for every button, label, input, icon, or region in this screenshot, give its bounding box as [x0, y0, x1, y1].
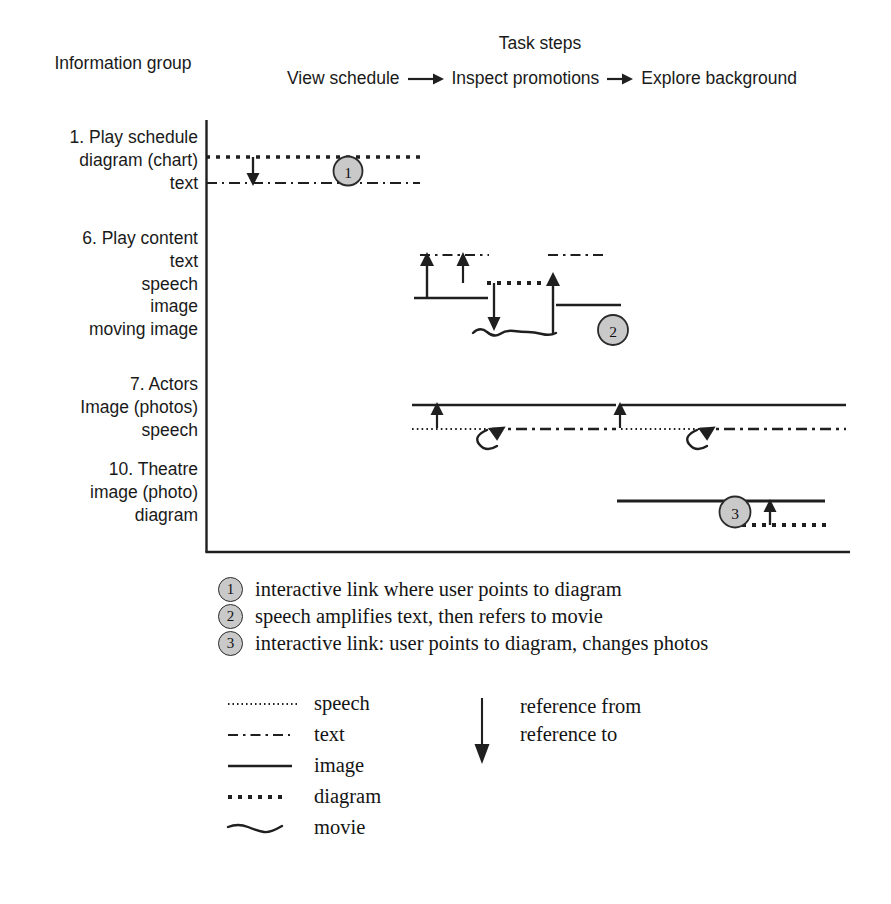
- note-text: interactive link where user points to di…: [255, 578, 622, 601]
- marker-1[interactable]: 1: [334, 157, 363, 186]
- row-play-schedule: 1: [206, 157, 420, 187]
- marker-3[interactable]: 3: [720, 497, 751, 528]
- image-line-swatch: [222, 756, 308, 776]
- marker-badge-1: 1: [218, 577, 243, 602]
- legend-label: image: [308, 754, 364, 777]
- list-item: 2 speech amplifies text, then refers to …: [218, 603, 878, 630]
- curved-reference-arrow-1: [477, 420, 509, 449]
- track-moving-image-movie: [473, 329, 556, 335]
- plot-axes: [206, 120, 851, 553]
- speech-line-swatch: [222, 694, 308, 714]
- legend-item-diagram: diagram: [222, 781, 642, 812]
- legend-item-movie: movie: [222, 812, 642, 843]
- marker-label: 2: [609, 323, 617, 340]
- legend-label: speech: [308, 692, 370, 715]
- note-text: speech amplifies text, then refers to mo…: [255, 605, 603, 628]
- reference-arrow-up-movie-to-text: [546, 272, 560, 334]
- legend-label: movie: [308, 816, 365, 839]
- list-item: 3 interactive link: user points to diagr…: [218, 630, 878, 657]
- down-arrow-icon: [468, 696, 508, 768]
- reference-arrow-down: [247, 157, 260, 186]
- marker-2[interactable]: 2: [598, 315, 628, 345]
- diagram-canvas: Task steps Information group View schedu…: [0, 0, 891, 904]
- curved-reference-arrow-2: [687, 420, 719, 449]
- marker-notes-list: 1 interactive link where user points to …: [218, 576, 878, 657]
- marker-badge-3: 3: [218, 631, 243, 656]
- reference-arrow-up-speech-to-text: [457, 252, 470, 283]
- diagram-line-swatch: [222, 787, 308, 807]
- movie-line-swatch: [222, 818, 308, 838]
- note-text: interactive link: user points to diagram…: [255, 632, 708, 655]
- row-theatre: 3: [617, 497, 828, 528]
- reference-arrow-down-speech-to-movie: [488, 283, 501, 331]
- reference-arrow-up-image-to-text: [420, 252, 434, 297]
- legend-label: diagram: [308, 785, 381, 808]
- timeline-plot: 1: [0, 0, 891, 580]
- legend-label: text: [308, 723, 345, 746]
- list-item: 1 interactive link where user points to …: [218, 576, 878, 603]
- row-play-content: 2: [414, 252, 628, 345]
- reference-arrow-up-diagram-to-image: [764, 499, 777, 525]
- text-line-swatch: [222, 725, 308, 745]
- marker-badge-2: 2: [218, 604, 243, 629]
- reference-direction-key: reference from reference to: [468, 692, 718, 749]
- marker-label: 1: [344, 164, 352, 181]
- legend-item-image: image: [222, 750, 642, 781]
- row-actors: [412, 402, 846, 449]
- marker-label: 3: [731, 505, 739, 522]
